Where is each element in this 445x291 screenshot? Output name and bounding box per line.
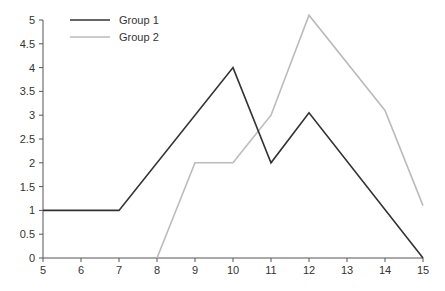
x-tick-label: 7: [116, 264, 122, 276]
y-tick-label: 1.5: [20, 181, 35, 193]
x-tick-label: 9: [192, 264, 198, 276]
y-tick-label: 4.5: [20, 38, 35, 50]
x-tick-label: 14: [379, 264, 391, 276]
series-lines: [43, 15, 423, 258]
y-tick-label: 3.5: [20, 85, 35, 97]
x-tick-label: 12: [303, 264, 315, 276]
legend: Group 1 Group 2: [70, 14, 159, 43]
legend-label-group-2: Group 2: [119, 31, 159, 43]
x-tick-label: 13: [341, 264, 353, 276]
x-tick-label: 6: [78, 264, 84, 276]
y-tick-label: 0: [29, 252, 35, 264]
x-tick-label: 15: [417, 264, 429, 276]
y-tick-label: 0.5: [20, 228, 35, 240]
y-tick-label: 5: [29, 14, 35, 26]
x-tick-label: 8: [154, 264, 160, 276]
y-tick-label: 2: [29, 157, 35, 169]
y-tick-label: 2.5: [20, 133, 35, 145]
x-tick-label: 10: [227, 264, 239, 276]
y-tick-label: 3: [29, 109, 35, 121]
x-tick-label: 11: [265, 264, 276, 276]
y-tick-label: 4: [29, 62, 35, 74]
legend-label-group-1: Group 1: [119, 14, 159, 26]
axes: 5678910111213141500.511.522.533.544.55: [20, 14, 429, 276]
x-tick-label: 5: [40, 264, 46, 276]
y-tick-label: 1: [29, 204, 35, 216]
line-chart: 5678910111213141500.511.522.533.544.55 G…: [0, 0, 445, 291]
